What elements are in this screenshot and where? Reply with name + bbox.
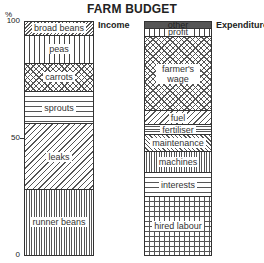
expenditure-segment-machines: machines — [145, 152, 211, 173]
expenditure-bar: other profit farmer's wage fuel fertilis… — [144, 21, 212, 256]
income-segment-sprouts: sprouts — [25, 92, 93, 125]
segment-label: peas — [47, 44, 71, 54]
segment-label: broad beans — [32, 23, 86, 33]
income-segment-peas: peas — [25, 36, 93, 64]
segment-label: runner beans — [30, 217, 87, 227]
expenditure-segment-interests: interests — [145, 173, 211, 196]
segment-label: machines — [157, 157, 200, 167]
segment-label: other — [166, 22, 191, 29]
segment-label: leaks — [46, 152, 71, 162]
segment-label: carrots — [43, 72, 75, 82]
income-bar: broad beans peas carrots sprouts leaks r… — [24, 21, 94, 256]
segment-label: hired labour — [152, 221, 204, 231]
segment-label: farmer's wage — [156, 64, 200, 84]
expenditure-segment-maintenance: maintenance — [145, 135, 211, 153]
expenditure-segment-farmers-wage: farmer's wage — [145, 37, 211, 112]
income-segment-carrots: carrots — [25, 64, 93, 92]
segment-label: profit — [166, 29, 190, 37]
income-segment-leaks: leaks — [25, 124, 93, 189]
expenditure-segment-fuel: fuel — [145, 111, 211, 125]
chart-title: FARM BUDGET — [0, 2, 264, 16]
income-segment-broad-beans: broad beans — [25, 22, 93, 36]
expenditure-segment-hired-labour: hired labour — [145, 197, 211, 255]
expenditure-label: Expenditure — [216, 20, 264, 30]
y-tick-50: 50 — [0, 133, 20, 142]
expenditure-segment-fertiliser: fertiliser — [145, 125, 211, 134]
segment-label: maintenance — [150, 138, 206, 148]
y-tick-100: 100 — [0, 16, 20, 25]
segment-label: fertiliser — [160, 125, 196, 134]
income-segment-runner-beans: runner beans — [25, 190, 93, 255]
expenditure-segment-profit: profit — [145, 29, 211, 37]
expenditure-segment-other: other — [145, 22, 211, 29]
segment-label: sprouts — [42, 103, 76, 113]
segment-label: fuel — [169, 113, 188, 123]
segment-label: interests — [159, 180, 197, 190]
y-tick-0: 0 — [0, 250, 20, 259]
income-label: Income — [98, 20, 130, 30]
